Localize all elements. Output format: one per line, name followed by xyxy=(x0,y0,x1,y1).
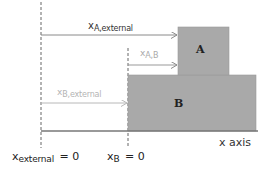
box-b-label: B xyxy=(174,97,183,110)
x-axis-label: x axis xyxy=(219,137,251,148)
box-b xyxy=(128,75,256,131)
x-a-b-label: xA,B xyxy=(140,49,158,58)
x-a-external-label: xA,external xyxy=(88,21,133,31)
b-origin-label: xB = 0 xyxy=(107,151,145,162)
reference-frames-diagram: A B xA,external xA,B xB,external x axis … xyxy=(0,0,266,170)
box-a-label: A xyxy=(196,43,205,56)
x-b-external-label: xB,external xyxy=(57,88,101,97)
external-origin-label: xexternal = 0 xyxy=(12,151,79,162)
